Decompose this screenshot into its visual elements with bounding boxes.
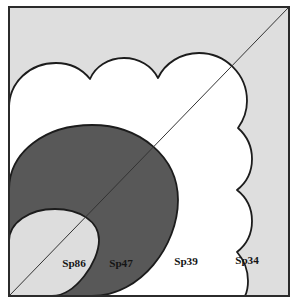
region-label-sp86: Sp86	[62, 257, 86, 269]
figure-root: Sp86 Sp47 Sp39 Sp34	[0, 0, 297, 307]
region-label-sp47: Sp47	[109, 257, 133, 269]
nested-region-diagram: Sp86 Sp47 Sp39 Sp34	[0, 0, 297, 307]
region-label-sp34: Sp34	[235, 254, 259, 266]
region-label-sp39: Sp39	[174, 255, 198, 267]
